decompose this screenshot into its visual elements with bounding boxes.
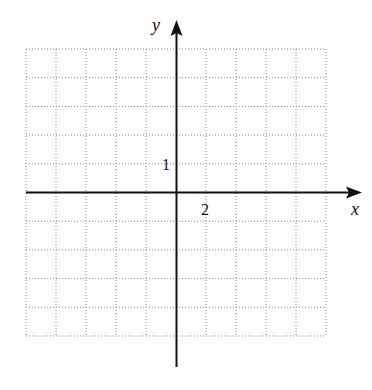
x-axis-label: x: [350, 199, 359, 219]
x-tick-label: 2: [201, 201, 209, 218]
coordinate-plane: y x 1 2: [0, 0, 372, 390]
y-tick-label: 1: [162, 156, 170, 173]
y-axis-label: y: [150, 15, 160, 35]
x-axis: [26, 187, 362, 199]
